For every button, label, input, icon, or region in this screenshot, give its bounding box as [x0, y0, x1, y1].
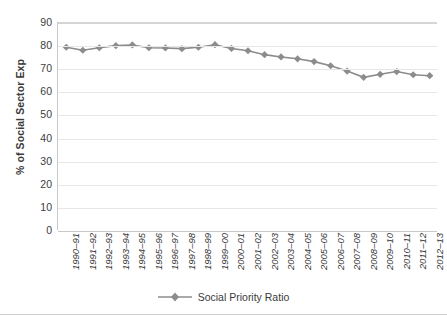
data-point-marker — [310, 58, 317, 65]
data-point-marker — [79, 47, 86, 54]
legend-entry-label: Social Priority Ratio — [198, 291, 290, 303]
x-axis-tick-label: 2000–01 — [235, 233, 247, 285]
data-point-marker — [277, 53, 284, 60]
y-axis-tick-label: 30 — [24, 155, 52, 167]
y-axis-tick-label: 90 — [24, 16, 52, 28]
x-axis-tick-label: 1990–91 — [70, 233, 82, 285]
data-point-marker — [211, 41, 218, 48]
x-axis-tick-labels: 1990–911991–921992–931993–941994–951995–… — [57, 231, 437, 283]
data-point-marker — [377, 71, 384, 78]
gridline — [58, 162, 437, 163]
series-markers — [63, 41, 434, 81]
x-axis-tick-label: 1994–95 — [136, 233, 148, 285]
gridline — [58, 115, 437, 116]
y-axis-tick-label: 20 — [24, 178, 52, 190]
x-axis-tick-label: 2005–06 — [318, 233, 330, 285]
data-point-marker — [129, 41, 136, 48]
legend-marker-icon — [158, 291, 192, 303]
x-axis-tick-label: 1996–97 — [169, 233, 181, 285]
x-axis-tick-label: 1991–92 — [87, 233, 99, 285]
y-axis-tick-label: 0 — [24, 224, 52, 236]
x-axis-tick-label: 2002–03 — [269, 233, 281, 285]
y-axis-tick-label: 60 — [24, 85, 52, 97]
x-axis-tick-label: 1999–00 — [219, 233, 231, 285]
x-axis-tick-label: 2004–05 — [302, 233, 314, 285]
gridline — [58, 185, 437, 186]
chart-legend: Social Priority Ratio — [0, 291, 447, 303]
x-axis-tick-label: 2001–02 — [252, 233, 264, 285]
x-axis-tick-label: 1997–98 — [186, 233, 198, 285]
x-axis-tick-label: 2003–04 — [285, 233, 297, 285]
x-axis-tick-label: 2012–13 — [434, 233, 446, 285]
gridline — [58, 23, 437, 24]
gridline — [58, 208, 437, 209]
y-axis-tick-label: 80 — [24, 39, 52, 51]
y-axis-tick-label: 70 — [24, 62, 52, 74]
y-axis-tick-label: 50 — [24, 108, 52, 120]
gridline — [58, 92, 437, 93]
series-social-priority-ratio — [58, 23, 438, 231]
x-axis-tick-label: 2009–10 — [384, 233, 396, 285]
gridline — [58, 139, 437, 140]
gridline — [58, 46, 437, 47]
y-axis-tick-labels: 0102030405060708090 — [24, 15, 52, 231]
y-axis-tick-label: 40 — [24, 132, 52, 144]
x-axis-tick-label: 2007–08 — [351, 233, 363, 285]
data-point-marker — [244, 47, 251, 54]
x-axis-tick-label: 1998–99 — [202, 233, 214, 285]
data-point-marker — [195, 44, 202, 51]
data-point-marker — [63, 44, 70, 51]
gridline — [58, 69, 437, 70]
plot-area — [57, 22, 437, 230]
data-point-marker — [426, 72, 433, 79]
chart-figure: % of Social Sector Exp 01020304050607080… — [0, 0, 447, 315]
x-axis-tick-label: 2008–09 — [368, 233, 380, 285]
y-axis-tick-label: 10 — [24, 201, 52, 213]
x-axis-tick-label: 1992–93 — [103, 233, 115, 285]
data-point-marker — [360, 74, 367, 81]
x-axis-tick-label: 2006–07 — [335, 233, 347, 285]
x-axis-tick-label: 2010–11 — [401, 233, 413, 285]
data-point-marker — [410, 71, 417, 78]
x-axis-tick-label: 1993–94 — [120, 233, 132, 285]
data-point-marker — [294, 55, 301, 62]
x-axis-tick-label: 1995–96 — [153, 233, 165, 285]
x-axis-tick-label: 2011–12 — [417, 233, 429, 285]
data-point-marker — [261, 51, 268, 58]
